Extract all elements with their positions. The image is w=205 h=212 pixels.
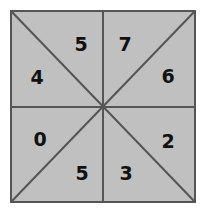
sector-label-right-lower: 2: [161, 130, 174, 152]
sector-label-bottom-left-lower: 5: [75, 162, 88, 184]
sector-label-right-upper: 6: [161, 65, 174, 87]
sector-label-top-right-upper: 7: [118, 33, 131, 55]
figure-container: 5 7 6 2 3 5 0 4: [0, 0, 205, 212]
eight-sector-square-diagram: 5 7 6 2 3 5 0 4: [0, 0, 205, 212]
sector-label-left-lower: 0: [33, 128, 46, 150]
sector-label-left-upper: 4: [30, 66, 43, 88]
sector-label-top-left-upper: 5: [74, 33, 87, 55]
sector-label-bottom-right-lower: 3: [119, 162, 132, 184]
